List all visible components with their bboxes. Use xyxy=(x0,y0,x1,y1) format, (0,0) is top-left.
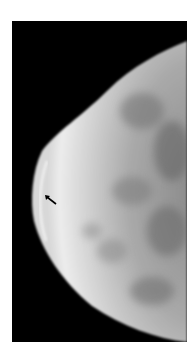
arrow-annotation-icon xyxy=(45,195,57,205)
mammogram-image xyxy=(12,21,187,342)
breast-tissue xyxy=(12,21,187,342)
